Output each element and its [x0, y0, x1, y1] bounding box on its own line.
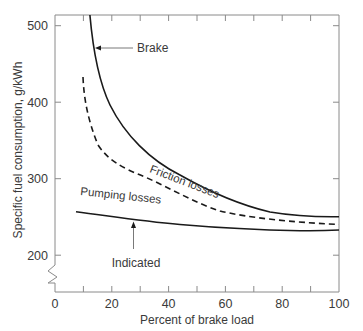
y-tick-200: 200: [27, 249, 48, 263]
indicated-label: Indicated: [112, 256, 161, 270]
dashed-curve: [83, 77, 339, 225]
series-friction-dashed: [83, 77, 339, 225]
brake-annotation: Brake: [95, 41, 169, 55]
y-tick-300: 300: [27, 172, 48, 186]
plot-frame: [48, 15, 339, 292]
brake-label: Brake: [137, 41, 169, 55]
x-tick-20: 20: [105, 297, 119, 311]
x-tick-80: 80: [275, 297, 289, 311]
chart-svg: 500 400 300 200 0 20 40 60 80 100 Percen…: [0, 0, 363, 331]
x-tick-60: 60: [218, 297, 232, 311]
fuel-consumption-chart: 500 400 300 200 0 20 40 60 80 100 Percen…: [0, 0, 363, 331]
x-tick-labels: 0 20 40 60 80 100: [52, 297, 350, 311]
x-tick-40: 40: [162, 297, 176, 311]
indicated-arrowhead-icon: [131, 222, 136, 229]
y-axis-title: Specific fuel consumption, g/kWh: [11, 62, 25, 239]
y-tick-500: 500: [27, 19, 48, 33]
x-tick-100: 100: [329, 297, 350, 311]
y-ticks: [55, 26, 339, 256]
y-tick-400: 400: [27, 96, 48, 110]
x-axis-title: Percent of brake load: [140, 313, 254, 327]
brake-arrowhead-icon: [95, 46, 101, 51]
x-ticks: [83, 15, 310, 292]
pumping-losses-label: Pumping losses: [80, 185, 162, 205]
y-axis-with-break: [48, 15, 57, 292]
y-tick-labels: 500 400 300 200: [27, 19, 48, 263]
indicated-annotation: Indicated: [112, 222, 161, 271]
x-tick-0: 0: [52, 297, 59, 311]
